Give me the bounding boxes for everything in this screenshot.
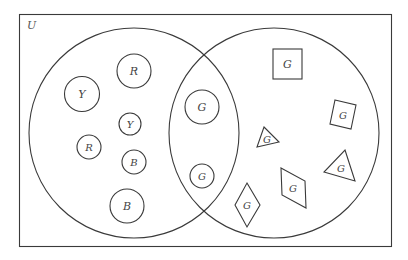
element-parallelogram-g: G bbox=[281, 168, 306, 208]
element-square-g-rotated: G bbox=[330, 100, 356, 129]
element-square-g-large: G bbox=[273, 49, 302, 79]
element-circle-y-small: Y bbox=[119, 113, 141, 135]
element-label: G bbox=[289, 183, 297, 194]
element-triangle-g-small: G bbox=[257, 127, 279, 147]
element-label: R bbox=[84, 142, 93, 153]
universe-label: U bbox=[27, 19, 37, 32]
element-label: G bbox=[263, 134, 271, 145]
element-label: G bbox=[198, 101, 207, 114]
element-circle-g-small: G bbox=[190, 164, 214, 188]
element-circle-r-small: R bbox=[77, 135, 101, 159]
element-label: G bbox=[283, 58, 292, 71]
element-label: R bbox=[129, 65, 138, 78]
element-circle-y-large: Y bbox=[65, 77, 100, 112]
element-circle-b-small: B bbox=[122, 150, 146, 174]
element-label: G bbox=[243, 200, 251, 211]
element-rhombus-g: G bbox=[235, 183, 260, 227]
element-circle-r-large: R bbox=[117, 54, 151, 88]
element-label: B bbox=[129, 157, 137, 168]
element-label: G bbox=[198, 171, 206, 182]
element-label: B bbox=[122, 200, 131, 213]
element-label: G bbox=[337, 163, 345, 174]
universe-rectangle bbox=[20, 15, 392, 247]
element-circle-g-large: G bbox=[185, 90, 219, 124]
venn-diagram: U Y R Y R B B G G G G bbox=[0, 0, 408, 260]
element-triangle-g-large: G bbox=[324, 150, 355, 181]
element-circle-b-large: B bbox=[110, 189, 144, 223]
element-label: G bbox=[339, 110, 347, 121]
